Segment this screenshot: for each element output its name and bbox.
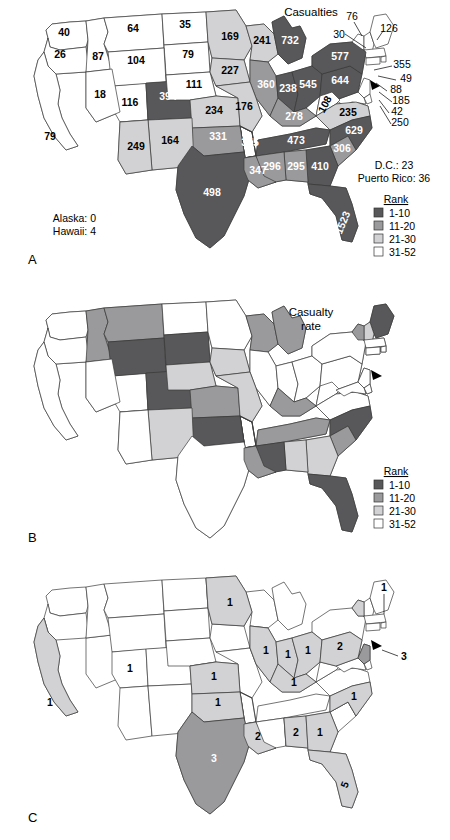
state-nd [162, 578, 208, 611]
map-value-nv: 18 [94, 88, 106, 100]
state-wa [46, 587, 88, 616]
legend-label-31-52: 31-52 [389, 518, 416, 530]
state-mi [272, 582, 306, 630]
map-value-mn: 1 [227, 596, 233, 608]
map-value-oh: 545 [299, 78, 317, 90]
map-value-ks: 1 [211, 670, 217, 682]
map-b-arrow-ct [371, 370, 382, 380]
map-value-id: 87 [92, 50, 104, 62]
map-value-ga: 410 [311, 160, 329, 172]
map-value-il: 1 [263, 644, 269, 656]
map-value-wy: 104 [127, 54, 145, 66]
state-al-filled [284, 440, 308, 472]
map-value-nc: 1 [351, 690, 357, 702]
panel-c-letter: C [28, 810, 37, 825]
map-value-ks: 234 [205, 104, 223, 116]
map-value-ia: 227 [221, 64, 239, 76]
map-a-callout-me: 126 [380, 22, 398, 34]
map-c-callout-nj: 3 [401, 650, 407, 662]
map-value-tx: 498 [203, 186, 221, 198]
panel-b-casualty-rate: Casualty rate Rank 1-1011-2021-3031-52 B [0, 280, 450, 558]
legend-title-b: Rank [384, 465, 409, 477]
map-value-ne: 111 [186, 78, 203, 90]
map-value-nm: 164 [161, 134, 179, 146]
map-value-oh: 1 [305, 644, 311, 656]
map-value-al: 295 [287, 160, 305, 172]
state-sd-filled [164, 332, 210, 365]
legend-label-11-20: 11-20 [389, 220, 415, 232]
state-fl-filled [308, 750, 358, 808]
legend-title-a: Rank [384, 193, 409, 205]
map-a-callout-ma: 355 [393, 58, 411, 70]
map-value-ny: 577 [331, 50, 349, 62]
legend-label-21-30: 21-30 [389, 233, 416, 245]
legend-label-11-20: 11-20 [389, 492, 415, 504]
state-ct [366, 57, 380, 65]
legend-label-21-30: 21-30 [389, 505, 416, 517]
map-a-legend: Rank 1-1011-2021-3031-52 [374, 193, 416, 258]
map-a-callout-md: 250 [391, 116, 409, 128]
legend-swatch-11-20 [374, 221, 383, 230]
panel-b-letter: B [28, 530, 37, 545]
legend-swatch-21-30 [374, 234, 383, 243]
map-value-al: 2 [293, 726, 299, 738]
map-a-note-alaska: Alaska: 0 [53, 212, 96, 224]
state-wy [108, 614, 166, 652]
map-a-title: Casualties [284, 6, 338, 18]
map-value-mt: 64 [127, 22, 139, 34]
panel-a-casualties: 4026876435791041879116394111169227241732… [0, 0, 450, 280]
state-ks-filled [190, 386, 240, 418]
state-wa-filled [46, 311, 88, 340]
map-value-tn: 473 [287, 134, 305, 146]
map-value-va: 235 [339, 106, 357, 118]
state-ct [366, 623, 380, 631]
map-value-or: 26 [54, 48, 66, 60]
map-value-ky: 1 [291, 676, 297, 688]
state-fl-filled [308, 184, 358, 242]
map-value-ar: 355 [241, 136, 259, 148]
map-value-in: 238 [279, 82, 297, 94]
panel-a-letter: A [28, 252, 37, 267]
state-ia [210, 624, 250, 652]
map-value-ut: 1 [127, 662, 133, 674]
map-value-ky: 278 [285, 110, 303, 122]
map-value-nd: 35 [179, 18, 191, 30]
map-b-legend: Rank 1-1011-2021-3031-52 [374, 465, 416, 530]
map-value-pa: 2 [337, 640, 343, 652]
map-value-co: 394 [159, 90, 177, 102]
legend-swatch-31-52 [374, 247, 383, 256]
panel-c-counts: 1111132111121215 1 3 C [0, 558, 450, 840]
map-value-ok: 331 [209, 130, 227, 142]
legend-label-31-52: 31-52 [389, 246, 416, 258]
state-ne [166, 638, 216, 666]
map-value-sd: 79 [182, 48, 194, 60]
state-ne-filled [166, 362, 216, 390]
map-value-ca: 1 [47, 696, 53, 708]
map-value-ga: 1 [317, 726, 323, 738]
state-ri-filled [381, 346, 386, 352]
map-value-mo: 176 [235, 100, 253, 112]
state-az-filled [118, 410, 152, 464]
map-c-callout-vt: 1 [381, 581, 387, 593]
map-value-il: 360 [257, 78, 275, 90]
legend-label-1-10: 1-10 [389, 479, 410, 491]
map-a-note-pr: Puerto Rico: 36 [358, 172, 431, 184]
map-c-states [34, 576, 394, 814]
map-value-la: 2 [255, 730, 261, 742]
state-fl-filled [308, 474, 358, 532]
map-value-mi: 732 [281, 34, 299, 46]
state-mt-filled [104, 304, 164, 342]
map-value-nc: 629 [345, 124, 363, 136]
state-nd-filled [162, 302, 208, 335]
map-value-la: 347 [249, 164, 267, 176]
map-value-az: 249 [127, 140, 145, 152]
state-az [118, 686, 152, 740]
state-oh-filled [292, 356, 322, 402]
state-mt [104, 580, 164, 618]
state-tx-filled [176, 436, 250, 538]
map-value-tx: 3 [211, 752, 217, 764]
map-a-note-hawaii: Hawaii: 4 [53, 225, 96, 237]
map-value-wa: 40 [58, 26, 70, 38]
map-a-callout-ri: 49 [400, 72, 412, 84]
map-value-mn: 169 [221, 30, 239, 42]
